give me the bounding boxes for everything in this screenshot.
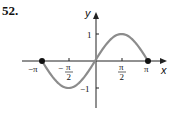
sine-graph: y x −π − π 2 π 2 π 1 −1	[0, 0, 178, 114]
svg-text:π: π	[66, 62, 71, 72]
svg-text:π: π	[119, 62, 124, 72]
tick-pi: π	[144, 64, 149, 74]
tick-half-pi: π 2	[118, 62, 126, 82]
svg-text:2: 2	[67, 72, 72, 82]
svg-text:2: 2	[120, 72, 125, 82]
tick-y-neg1: −1	[80, 84, 90, 94]
y-axis-label: y	[84, 7, 92, 19]
y-axis-arrow-icon	[93, 12, 99, 19]
tick-y-1: 1	[87, 30, 92, 40]
tick-neg-half-pi: − π 2	[58, 62, 73, 82]
endpoint-left	[39, 58, 45, 64]
x-axis-label: x	[160, 64, 167, 76]
svg-text:−: −	[58, 63, 63, 73]
tick-neg-pi: −π	[28, 64, 38, 74]
